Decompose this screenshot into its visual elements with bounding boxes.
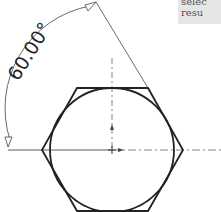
angle-dimension-text[interactable]: 60.00° <box>3 18 56 84</box>
arc-arrowhead-top <box>85 2 96 11</box>
origin-arrow-right <box>118 148 124 152</box>
origin-arrow-up <box>110 124 114 130</box>
sketch-canvas[interactable]: 60.00° <box>0 0 221 212</box>
arc-arrowhead-bottom <box>5 137 12 147</box>
dimension-leader-line <box>96 2 148 88</box>
tooltip: selec resu <box>178 0 221 24</box>
tooltip-line-2: resu <box>181 7 221 18</box>
tooltip-line-1: selec <box>181 0 221 7</box>
